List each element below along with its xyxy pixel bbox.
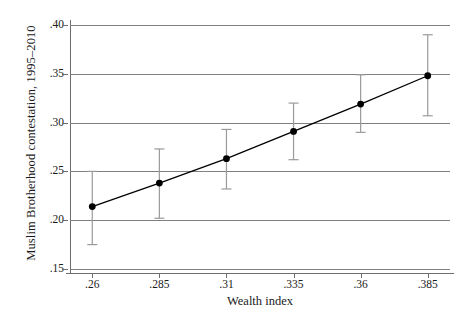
y-axis-tick-label: .40	[38, 19, 64, 31]
x-axis-tick-label: .335	[272, 278, 316, 290]
y-axis-tick-label: .15	[38, 263, 64, 275]
gridline-y	[70, 74, 450, 75]
x-axis-tick-label: .31	[204, 278, 248, 290]
y-axis-tick-mark	[62, 123, 68, 124]
gridline-y	[70, 220, 450, 221]
x-axis-tick-label: .285	[137, 278, 181, 290]
x-axis-tick-label: .26	[70, 278, 114, 290]
x-axis-tick-mark	[428, 273, 429, 278]
x-axis-tick-mark	[294, 273, 295, 278]
y-axis-tick-label: .35	[38, 68, 64, 80]
chart-figure: Muslim Brotherhood contestation, 1995–20…	[0, 0, 464, 320]
gridline-y	[70, 269, 450, 270]
y-axis-tick-label: .25	[38, 165, 64, 177]
y-axis-tick-mark	[62, 269, 68, 270]
plot-area	[70, 25, 450, 269]
y-axis-tick-labels: .15.20.25.30.35.40	[36, 0, 64, 320]
x-axis-line	[66, 273, 454, 274]
y-axis-tick-label: .20	[38, 214, 64, 226]
y-axis-tick-mark	[62, 171, 68, 172]
x-axis-title: Wealth index	[70, 294, 450, 308]
y-axis-tick-label: .30	[38, 117, 64, 129]
y-axis-tick-mark	[62, 220, 68, 221]
x-axis-tick-mark	[92, 273, 93, 278]
gridline-y	[70, 25, 450, 26]
x-axis-tick-mark	[159, 273, 160, 278]
x-axis-tick-mark	[361, 273, 362, 278]
x-axis-tick-label: .385	[406, 278, 450, 290]
x-axis-tick-mark	[226, 273, 227, 278]
x-axis-tick-label: .36	[339, 278, 383, 290]
gridline-y	[70, 123, 450, 124]
y-axis-tick-mark	[62, 74, 68, 75]
y-axis-tick-mark	[62, 25, 68, 26]
gridline-y	[70, 171, 450, 172]
